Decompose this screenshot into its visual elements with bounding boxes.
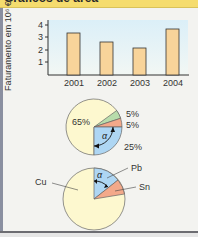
bottom-margin: [0, 233, 198, 237]
x-tick-label: 2002: [97, 78, 117, 88]
slice-25: [94, 127, 122, 155]
y-tick-label: 3: [38, 32, 43, 42]
pie2-label-cu: Cu: [35, 177, 47, 187]
bar-2003: [133, 48, 146, 75]
bar-2004: [166, 29, 179, 75]
x-tick-label: 2001: [64, 78, 84, 88]
pie-chart-2: α Cu Pb Sn: [35, 163, 150, 230]
alpha-label: α: [97, 170, 103, 180]
alpha-label: α: [102, 131, 108, 141]
y-ticks: 1 2 3 4: [38, 20, 48, 67]
pie-chart-1: α 65% 5% 5% 25%: [66, 99, 142, 155]
pie2-label-pb: Pb: [131, 163, 142, 173]
bar-2002: [100, 42, 113, 75]
pie1-label-5-green: 5%: [126, 109, 139, 119]
charts-svg: 1 2 3 4 2001 2002 2003 2004 α: [0, 0, 198, 237]
y-tick-label: 2: [38, 45, 43, 55]
y-tick-label: 1: [38, 57, 43, 67]
bar-2001: [67, 33, 80, 75]
pie1-label-65: 65%: [72, 117, 90, 127]
x-tick-label: 2003: [130, 78, 150, 88]
y-tick-label: 4: [38, 20, 43, 30]
x-tick-label: 2004: [163, 78, 183, 88]
pie1-label-5-orange: 5%: [126, 120, 139, 130]
pie1-label-25: 25%: [124, 142, 142, 152]
x-tick-labels: 2001 2002 2003 2004: [64, 78, 183, 88]
pie2-label-sn: Sn: [139, 182, 150, 192]
bar-chart: 1 2 3 4 2001 2002 2003 2004: [38, 20, 189, 88]
